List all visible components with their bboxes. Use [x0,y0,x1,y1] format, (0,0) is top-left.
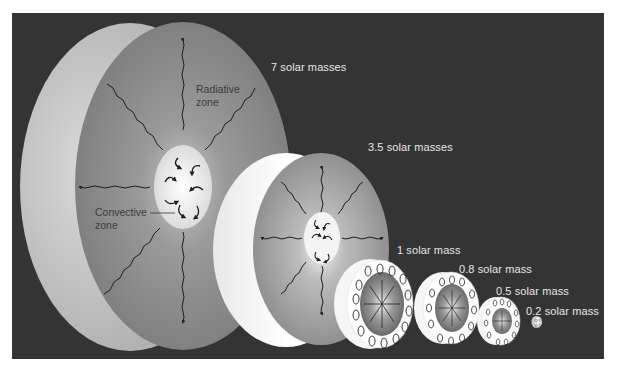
convective-zone-label: Convective zone [95,206,147,232]
label-3-5-solar-masses: 3.5 solar masses [368,141,453,153]
radiation-wave-icons [439,290,465,326]
star-1-solar-mass [334,259,413,349]
label-1-solar-mass: 1 solar mass [397,244,461,256]
convective-core [304,212,340,264]
star-0-2-solar-mass [532,316,543,328]
radiative-zone-label: Radiative zone [196,83,240,109]
radiative-zone-line2: zone [196,96,240,109]
label-0-8-solar-mass: 0.8 solar mass [459,263,532,275]
label-7-solar-masses: 7 solar masses [271,61,346,73]
convective-zone-line1: Convective [95,206,147,219]
diagram-panel: 7 solar masses 3.5 solar masses 1 solar … [12,13,604,359]
label-0-5-solar-mass: 0.5 solar mass [496,285,569,297]
label-0-2-solar-mass: 0.2 solar mass [526,305,599,317]
convective-zone-line2: zone [95,219,147,232]
radiative-zone-line1: Radiative [196,83,240,96]
star-0-8-solar-mass [414,272,479,345]
star-0-5-solar-mass [477,297,520,345]
